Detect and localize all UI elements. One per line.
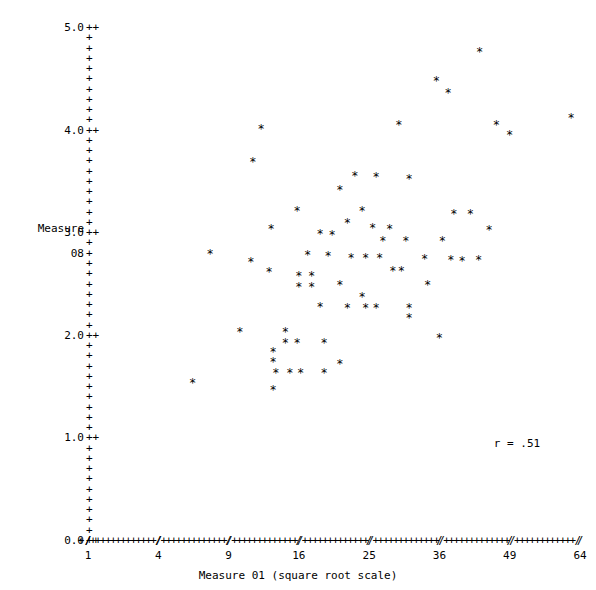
data-point: * bbox=[308, 283, 315, 291]
y-axis-minor-tick: + bbox=[86, 516, 93, 524]
x-axis-tick-mark: / bbox=[366, 537, 373, 545]
data-point: * bbox=[475, 256, 482, 264]
x-axis-origin-glyph: + bbox=[78, 537, 85, 545]
x-axis-tick-mark: / bbox=[225, 537, 232, 545]
data-point: * bbox=[269, 386, 276, 394]
data-point: * bbox=[379, 237, 386, 245]
data-point: * bbox=[282, 339, 289, 347]
data-point: * bbox=[459, 257, 466, 265]
y-axis-minor-tick: + bbox=[86, 363, 93, 371]
data-point: * bbox=[476, 48, 483, 56]
x-axis-tick-mark: / bbox=[577, 537, 584, 545]
y-axis-minor-tick: + bbox=[86, 168, 93, 176]
data-point: * bbox=[320, 339, 327, 347]
y-axis-minor-tick: + bbox=[86, 137, 93, 145]
data-point: * bbox=[297, 369, 304, 377]
data-point: * bbox=[362, 254, 369, 262]
y-axis-minor-tick: + bbox=[86, 209, 93, 217]
data-point: * bbox=[369, 224, 376, 232]
data-point: * bbox=[433, 77, 440, 85]
y-axis-minor-tick: + bbox=[86, 291, 93, 299]
data-point: * bbox=[336, 281, 343, 289]
y-axis-minor-tick: + bbox=[86, 198, 93, 206]
y-axis-minor-tick: + bbox=[86, 383, 93, 391]
x-axis-tick-mark: / bbox=[436, 537, 443, 545]
y-axis-minor-tick: + bbox=[86, 455, 93, 463]
data-point: * bbox=[336, 360, 343, 368]
y-axis-tick-label: 2.0 bbox=[50, 332, 84, 340]
data-point: * bbox=[372, 304, 379, 312]
y-axis-minor-tick: + bbox=[86, 239, 93, 247]
data-point: * bbox=[249, 158, 256, 166]
y-axis: ++++++++++++++++++++++++++++++++++++++++… bbox=[86, 0, 126, 590]
data-point: * bbox=[236, 328, 243, 336]
data-point: * bbox=[395, 121, 402, 129]
x-axis-tick-mark: / bbox=[155, 537, 162, 545]
y-axis-minor-tick: + bbox=[86, 96, 93, 104]
data-point: * bbox=[424, 281, 431, 289]
data-point: * bbox=[386, 225, 393, 233]
y-axis-minor-tick: + bbox=[86, 86, 93, 94]
y-axis-major-tick: ++ bbox=[86, 332, 99, 340]
y-axis-minor-tick: + bbox=[86, 393, 93, 401]
data-point: * bbox=[286, 369, 293, 377]
x-axis-tick-label: 36 bbox=[433, 552, 446, 560]
data-point: * bbox=[351, 172, 358, 180]
y-axis-minor-tick: + bbox=[86, 219, 93, 227]
y-axis-minor-tick: + bbox=[86, 45, 93, 53]
x-axis-title: Measure 01 (square root scale) bbox=[0, 570, 596, 582]
y-axis-tick-label: 1.0 bbox=[50, 434, 84, 442]
y-axis-major-tick: ++ bbox=[86, 434, 99, 442]
data-point: * bbox=[347, 254, 354, 262]
data-point: * bbox=[444, 89, 451, 97]
data-point: * bbox=[282, 328, 289, 336]
y-axis-minor-tick: + bbox=[86, 373, 93, 381]
data-point: * bbox=[344, 304, 351, 312]
data-point: * bbox=[293, 207, 300, 215]
data-point: * bbox=[421, 255, 428, 263]
data-point: * bbox=[372, 173, 379, 181]
y-axis-minor-tick: + bbox=[86, 414, 93, 422]
data-point: * bbox=[439, 237, 446, 245]
data-point: * bbox=[247, 258, 254, 266]
data-point: * bbox=[189, 379, 196, 387]
data-point: * bbox=[436, 334, 443, 342]
data-point: * bbox=[405, 314, 412, 322]
data-point: * bbox=[493, 121, 500, 129]
y-axis-major-tick: ++ bbox=[86, 24, 99, 32]
y-axis-minor-tick: + bbox=[86, 404, 93, 412]
y-axis-minor-tick: + bbox=[86, 506, 93, 514]
data-point: * bbox=[316, 230, 323, 238]
data-point: * bbox=[258, 125, 265, 133]
data-point: * bbox=[389, 267, 396, 275]
y-axis-minor-tick: + bbox=[86, 65, 93, 73]
x-axis-tick-label: 9 bbox=[225, 552, 232, 560]
x-axis: /+++++++++++++/+++++++++++++/+++++++++++… bbox=[0, 537, 596, 549]
data-point: * bbox=[320, 369, 327, 377]
data-point: * bbox=[295, 283, 302, 291]
data-point: * bbox=[402, 237, 409, 245]
data-point: * bbox=[207, 250, 214, 258]
data-point: * bbox=[304, 251, 311, 259]
y-axis-minor-tick: + bbox=[86, 352, 93, 360]
y-axis-minor-tick: + bbox=[86, 250, 93, 258]
y-axis-minor-tick: + bbox=[86, 322, 93, 330]
data-point: * bbox=[376, 254, 383, 262]
data-point: * bbox=[266, 268, 273, 276]
y-axis-minor-tick: + bbox=[86, 116, 93, 124]
x-axis-tick-mark: / bbox=[296, 537, 303, 545]
y-axis-minor-tick: + bbox=[86, 424, 93, 432]
y-axis-minor-tick: + bbox=[86, 178, 93, 186]
y-axis-minor-tick: + bbox=[86, 445, 93, 453]
data-point: * bbox=[324, 252, 331, 260]
data-point: * bbox=[293, 339, 300, 347]
y-axis-minor-tick: + bbox=[86, 465, 93, 473]
y-axis-minor-tick: + bbox=[86, 106, 93, 114]
y-axis-tick-label: 3.0 bbox=[50, 229, 84, 237]
y-axis-minor-tick: + bbox=[86, 188, 93, 196]
y-axis-major-tick: ++ bbox=[86, 127, 99, 135]
x-axis-tick-label: 4 bbox=[155, 552, 162, 560]
data-point: * bbox=[268, 225, 275, 233]
y-axis-tick-label: 4.0 bbox=[50, 127, 84, 135]
data-point: * bbox=[405, 175, 412, 183]
